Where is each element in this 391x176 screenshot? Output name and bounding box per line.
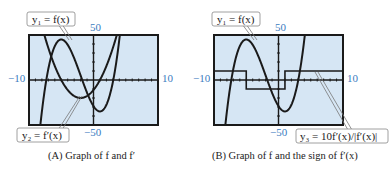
panel-b-y3-label: y₃ = 10f′(x)/|f′(x)| bbox=[300, 130, 377, 143]
panel-a-ymax-label: 50 bbox=[90, 21, 102, 33]
panel-a-xmax-label: 10 bbox=[162, 72, 174, 84]
panel-a-ymin-label: −50 bbox=[84, 126, 102, 138]
panel-b-xmax-label: 10 bbox=[347, 72, 359, 84]
panel-b-ymin-label: −50 bbox=[270, 126, 288, 138]
panel-a-xmin-label: −10 bbox=[8, 72, 26, 84]
panel-a-y2-label: y₂ = f′(x) bbox=[22, 129, 62, 142]
caption-a: (A) Graph of f and f′ bbox=[48, 150, 135, 161]
panel-a-y1-label: y₁ = f(x) bbox=[32, 13, 70, 26]
panel-b-y1-label: y₁ = f(x) bbox=[217, 13, 255, 26]
panel-b-xmin-label: −10 bbox=[193, 72, 211, 84]
caption-b: (B) Graph of f and the sign of f′(x) bbox=[212, 150, 358, 161]
panel-b-ymax-label: 50 bbox=[275, 21, 287, 33]
